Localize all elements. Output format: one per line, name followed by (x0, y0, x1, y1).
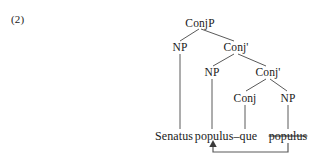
tree-node-conj-bar-1: Conj' (224, 41, 249, 53)
branch-conjbar2-np3 (270, 79, 287, 91)
tree-leaf-senatus: Senatus (155, 129, 193, 144)
branch-conjbar1-conjbar2 (238, 54, 266, 66)
branch-conjbar1-np2 (213, 54, 234, 66)
tree-node-np-2: NP (205, 66, 220, 78)
tree-node-conj-bar-2: Conj' (256, 66, 281, 78)
branch-conjbar2-conj (246, 79, 266, 91)
movement-arrow (213, 143, 288, 152)
tree-leaf-populus-trace: populus (269, 129, 308, 144)
tree-leaf-populus-que: populus–que (195, 129, 257, 144)
tree-node-conjp: ConjP (185, 17, 214, 29)
figure-container: (2) ConjP NP Conj' NP Conj' Conj NP Sena (0, 0, 318, 163)
tree-node-conj: Conj (234, 92, 257, 104)
branch-conjp-conjbar1 (201, 29, 234, 41)
tree-node-np-3: NP (281, 92, 296, 104)
movement-arrow-path (213, 143, 288, 152)
tree-node-np-1: NP (173, 41, 188, 53)
branch-conjp-np1 (180, 29, 199, 41)
